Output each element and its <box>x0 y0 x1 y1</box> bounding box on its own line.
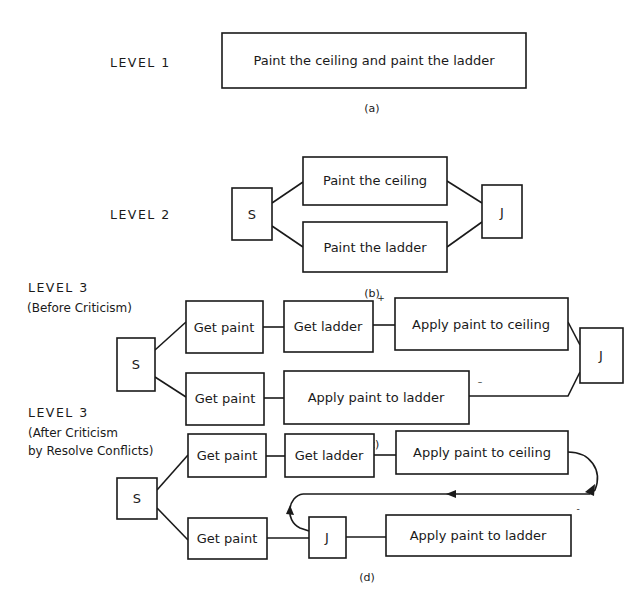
level-subtitle-line2: by Resolve Conflicts) <box>28 444 153 458</box>
node-label: Paint the ceiling <box>323 173 427 188</box>
node-label: Get ladder <box>294 319 363 334</box>
node-label: Apply paint to ladder <box>308 390 445 405</box>
panel-b: LEVEL 2 S Paint the ceiling Paint the la… <box>110 157 522 300</box>
caption: (a) <box>364 102 379 115</box>
connector <box>272 182 303 203</box>
connector <box>469 372 580 396</box>
arrowhead-icon <box>286 505 294 515</box>
minus-mark: - <box>576 504 579 514</box>
node-label: Paint the ceiling and paint the ladder <box>253 53 495 68</box>
join-label: J <box>499 205 504 220</box>
level-label: LEVEL 3 <box>28 405 89 420</box>
node-label: Paint the ladder <box>323 240 427 255</box>
split-label: S <box>132 357 140 372</box>
connector <box>155 377 186 397</box>
node-label: Get paint <box>194 320 254 335</box>
split-label: S <box>133 491 141 506</box>
join-label: J <box>324 530 329 545</box>
join-label: J <box>598 348 603 363</box>
arrowhead-icon <box>446 490 456 498</box>
node-label: Get paint <box>195 391 255 406</box>
minus-mark: – <box>478 377 483 387</box>
level-subtitle-line1: (After Criticism <box>28 426 118 440</box>
level-subtitle: (Before Criticism) <box>27 301 132 315</box>
connector <box>447 222 482 247</box>
node-label: Get paint <box>197 531 257 546</box>
level-label: LEVEL 1 <box>110 55 171 70</box>
planning-levels-diagram: LEVEL 1 Paint the ceiling and paint the … <box>0 0 644 614</box>
plus-mark: + <box>377 293 385 303</box>
node-label: Apply paint to ceiling <box>412 317 550 332</box>
node-label: Get paint <box>197 448 257 463</box>
panel-d: LEVEL 3 (After Criticism by Resolve Conf… <box>28 405 597 584</box>
node-label: Apply paint to ladder <box>410 528 547 543</box>
connector <box>155 322 186 350</box>
level-label: LEVEL 2 <box>110 207 171 222</box>
panel-a: LEVEL 1 Paint the ceiling and paint the … <box>110 33 526 115</box>
split-label: S <box>248 207 256 222</box>
connector <box>272 226 303 247</box>
node-label: Get ladder <box>295 448 364 463</box>
connector <box>447 181 482 203</box>
level-label: LEVEL 3 <box>28 280 89 295</box>
caption: (d) <box>359 571 375 584</box>
connector <box>157 455 188 490</box>
connector <box>568 322 580 345</box>
node-label: Apply paint to ceiling <box>413 445 551 460</box>
connector <box>157 508 188 540</box>
